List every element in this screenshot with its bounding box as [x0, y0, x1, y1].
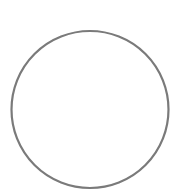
circle-outline-shape — [12, 31, 169, 188]
canvas — [0, 0, 184, 196]
drawing-surface — [0, 0, 184, 196]
